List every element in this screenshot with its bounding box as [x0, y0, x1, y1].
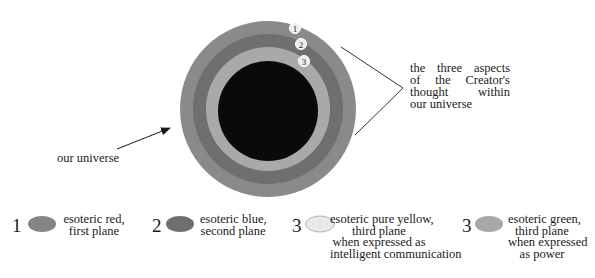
universe-core — [218, 61, 318, 161]
badge-3: 3 — [299, 56, 310, 67]
annotation-line: our universe — [410, 98, 510, 110]
badge-2: 2 — [296, 39, 307, 50]
legend-label-blue: esoteric blue, second plane — [200, 214, 266, 237]
legend-label-green: esoteric green, third plane when express… — [508, 214, 576, 260]
legend-swatch-green — [475, 216, 503, 232]
legend-number-2: 2 — [152, 216, 162, 235]
legend-number-3-green: 3 — [462, 216, 472, 235]
legend-line: as power — [508, 249, 576, 261]
badge-1: 1 — [290, 23, 301, 34]
legend-line: intelligent communication — [330, 249, 428, 261]
legend-line: second plane — [200, 226, 266, 238]
svg-text:1: 1 — [293, 24, 298, 34]
legend-swatch-red — [28, 216, 56, 232]
annotation-our-universe: our universe — [57, 152, 119, 164]
legend-number-1: 1 — [12, 216, 22, 235]
annotation-three-aspects: the three aspects of the Creator's thoug… — [410, 62, 510, 110]
legend-label-red: esoteric red, first plane — [63, 214, 125, 237]
legend-line: first plane — [63, 226, 125, 238]
arrow-to-universe — [117, 128, 170, 149]
legend-swatch-blue — [166, 216, 194, 232]
svg-text:3: 3 — [302, 57, 307, 67]
legend-label-yellow: esoteric pure yellow, third plane when e… — [330, 214, 428, 260]
legend-number-3-yellow: 3 — [292, 216, 302, 235]
svg-text:2: 2 — [299, 40, 304, 50]
